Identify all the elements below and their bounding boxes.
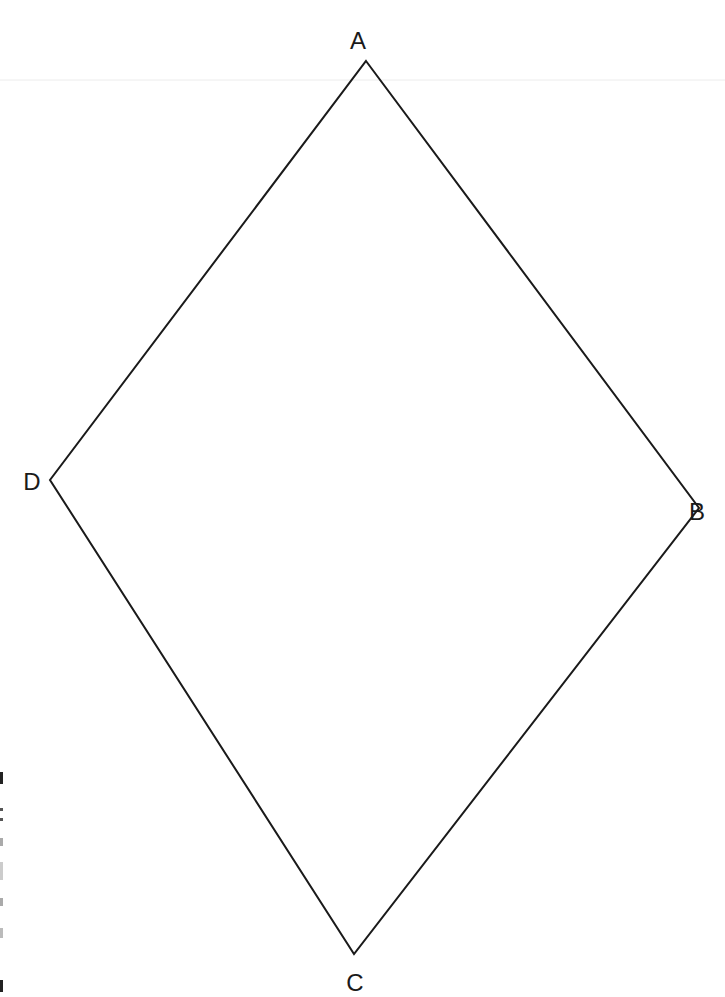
scan-artifact [0, 838, 3, 846]
scan-artifact [0, 818, 3, 821]
scan-artifact [0, 862, 3, 880]
vertex-label-c: C [346, 969, 363, 996]
vertex-label-a: A [350, 27, 366, 54]
scan-artifact [0, 980, 3, 992]
scan-artifact [0, 772, 3, 784]
scan-artifact [0, 928, 3, 938]
vertex-label-b: B [689, 498, 705, 525]
vertex-label-d: D [23, 468, 40, 495]
rhombus-diagram: A B C D [0, 0, 725, 997]
scan-artifact [0, 808, 3, 811]
rhombus-abcd [50, 61, 699, 954]
scan-artifact [0, 898, 3, 906]
